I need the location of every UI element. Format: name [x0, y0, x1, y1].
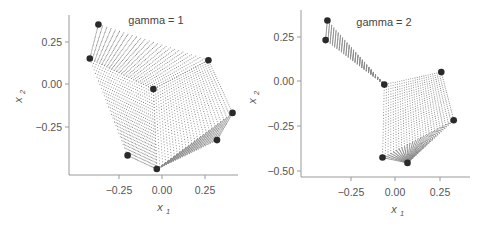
mesh-dot — [129, 92, 130, 93]
mesh-dot — [398, 138, 399, 139]
mesh-dot — [384, 92, 385, 93]
mesh-dot — [348, 57, 349, 58]
mesh-dot — [429, 134, 430, 135]
mesh-dot — [117, 126, 118, 127]
mesh-dot — [213, 93, 214, 94]
mesh-dot — [138, 154, 139, 155]
mesh-dot — [158, 145, 159, 146]
mesh-dot — [397, 86, 398, 87]
mesh-dot — [193, 64, 194, 65]
mesh-dot — [111, 38, 112, 39]
mesh-dot — [107, 70, 108, 71]
mesh-dot — [155, 150, 156, 151]
mesh-dot — [189, 89, 190, 90]
mesh-dot — [415, 113, 416, 114]
mesh-dot — [133, 66, 134, 67]
mesh-dot — [124, 102, 125, 103]
mesh-dot — [209, 121, 210, 122]
mesh-dot — [160, 131, 161, 132]
mesh-dot — [99, 84, 100, 85]
svg-text:1: 1 — [400, 209, 404, 218]
mesh-dot — [212, 75, 213, 76]
mesh-dot — [155, 135, 156, 136]
mesh-dot — [186, 91, 187, 92]
mesh-dot — [415, 106, 416, 107]
mesh-dot — [434, 110, 435, 111]
mesh-dot — [429, 98, 430, 99]
mesh-dot — [194, 100, 195, 101]
mesh-dot — [158, 95, 159, 96]
mesh-dot — [426, 93, 427, 94]
mesh-dot — [168, 84, 169, 85]
mesh-dot — [153, 137, 154, 138]
mesh-dot — [139, 60, 140, 61]
mesh-dot — [124, 138, 125, 139]
mesh-dot — [209, 82, 210, 83]
mesh-dot — [379, 81, 380, 82]
mesh-dot — [222, 123, 223, 124]
mesh-dot — [411, 124, 412, 125]
mesh-dot — [188, 76, 189, 77]
mesh-dot — [200, 80, 201, 81]
mesh-dot — [444, 95, 445, 96]
mesh-dot — [393, 90, 394, 91]
mesh-dot — [155, 97, 156, 98]
mesh-dot — [123, 41, 124, 42]
mesh-dot — [166, 88, 167, 89]
mesh-dot — [393, 143, 394, 144]
mesh-dot — [412, 100, 413, 101]
mesh-dot — [154, 77, 155, 78]
mesh-dot — [222, 122, 223, 123]
mesh-dot — [223, 92, 224, 93]
mesh-dot — [161, 54, 162, 55]
mesh-dot — [132, 127, 133, 128]
mesh-dot — [194, 123, 195, 124]
mesh-dot — [418, 88, 419, 89]
mesh-dot — [130, 60, 131, 61]
mesh-dot — [163, 141, 164, 142]
mesh-dot — [220, 131, 221, 132]
mesh-dot — [140, 67, 141, 68]
mesh-dot — [172, 73, 173, 74]
mesh-dot — [422, 129, 423, 130]
mesh-dot — [404, 143, 405, 144]
mesh-dot — [426, 132, 427, 133]
mesh-dot — [151, 157, 152, 158]
mesh-dot — [130, 117, 131, 118]
mesh-dot — [212, 139, 213, 140]
mesh-dot — [219, 133, 220, 134]
mesh-dot — [95, 49, 96, 50]
mesh-dot — [417, 81, 418, 82]
mesh-dot — [416, 96, 417, 97]
mesh-dot — [116, 37, 117, 38]
mesh-dot — [118, 114, 119, 115]
mesh-dot — [137, 90, 138, 91]
mesh-dot — [114, 60, 115, 61]
mesh-dot — [445, 100, 446, 101]
mesh-dot — [398, 115, 399, 116]
mesh-dot — [418, 152, 419, 153]
mesh-dot — [138, 105, 139, 106]
mesh-dot — [107, 82, 108, 83]
mesh-dot — [144, 163, 145, 164]
mesh-dot — [206, 74, 207, 75]
mesh-dot — [443, 79, 444, 80]
mesh-dot — [395, 82, 396, 83]
mesh-dot — [152, 139, 153, 140]
mesh-dot — [182, 93, 183, 94]
mesh-dot — [142, 79, 143, 80]
mesh-dot — [176, 108, 177, 109]
mesh-dot — [414, 94, 415, 95]
mesh-dot — [440, 100, 441, 101]
mesh-dot — [153, 75, 154, 76]
mesh-dot — [415, 147, 416, 148]
mesh-dot — [120, 133, 121, 134]
mesh-dot — [174, 89, 175, 90]
mesh-dot — [216, 132, 217, 133]
mesh-dot — [452, 114, 453, 115]
mesh-dot — [408, 86, 409, 87]
mesh-dot — [208, 67, 209, 68]
mesh-dot — [408, 118, 409, 119]
mesh-dot — [428, 79, 429, 80]
mesh-dot — [383, 123, 384, 124]
